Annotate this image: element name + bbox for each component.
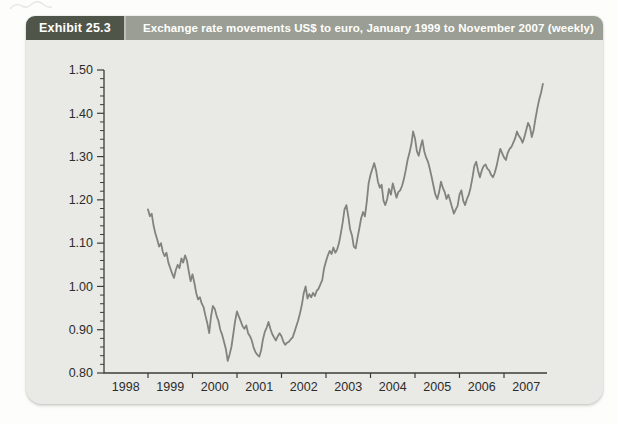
- x-year-label: 2004: [379, 380, 407, 394]
- exchange-rate-line: [148, 84, 543, 361]
- y-tick-label: 0.80: [69, 366, 93, 380]
- y-tick-label: 1.20: [69, 193, 93, 207]
- x-year-label: 2006: [468, 380, 496, 394]
- x-year-label: 1998: [112, 380, 140, 394]
- y-tick-label: 1.10: [69, 236, 93, 250]
- exhibit-header: Exhibit 25.3 Exchange rate movements US$…: [26, 16, 603, 40]
- exhibit-title: Exchange rate movements US$ to euro, Jan…: [124, 16, 603, 40]
- x-year-label: 2002: [290, 380, 318, 394]
- y-tick-label: 1.40: [69, 107, 93, 121]
- x-year-label: 2000: [201, 380, 229, 394]
- axis-lines: [104, 70, 547, 373]
- x-year-label: 2007: [512, 380, 540, 394]
- x-year-label: 1999: [156, 380, 184, 394]
- chart-area: 1.501.401.301.201.101.000.900.8019981999…: [26, 40, 603, 404]
- x-year-label: 2005: [423, 380, 451, 394]
- x-year-label: 2003: [334, 380, 362, 394]
- y-tick-label: 0.90: [69, 323, 93, 337]
- exchange-rate-chart: 1.501.401.301.201.101.000.900.8019981999…: [26, 40, 603, 404]
- exhibit-number-badge: Exhibit 25.3: [26, 16, 124, 40]
- scan-artifact-smudge: [8, 1, 54, 13]
- y-tick-label: 1.00: [69, 280, 93, 294]
- exhibit-panel: Exhibit 25.3 Exchange rate movements US$…: [26, 16, 603, 404]
- y-tick-label: 1.50: [69, 63, 93, 77]
- x-year-label: 2001: [245, 380, 273, 394]
- y-tick-label: 1.30: [69, 150, 93, 164]
